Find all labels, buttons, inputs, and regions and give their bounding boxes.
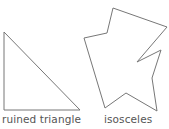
isosceles-label: isosceles bbox=[104, 113, 152, 125]
isosceles-shape bbox=[84, 8, 167, 111]
ruined-triangle-shape bbox=[4, 32, 80, 110]
diagram-canvas bbox=[0, 0, 169, 129]
ruined-triangle-label: ruined triangle bbox=[2, 113, 81, 125]
